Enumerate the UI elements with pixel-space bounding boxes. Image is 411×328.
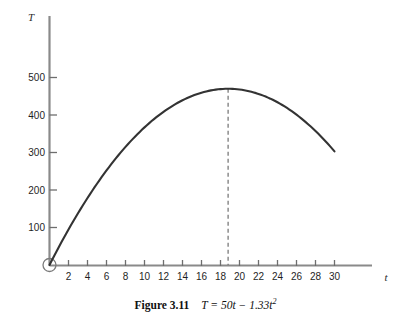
y-tick-label-200: 200 [28,185,45,196]
y-axis-ticks [50,78,58,228]
x-tick-label-20: 20 [234,271,246,282]
y-tick-label-500: 500 [28,72,45,83]
x-tick-label-22: 22 [253,271,265,282]
x-tick-label-14: 14 [177,271,189,282]
figure-container: 500 400 300 200 100 2 4 6 8 10 12 14 16 … [0,0,411,328]
x-tick-label-28: 28 [310,271,322,282]
y-axis-label: T [28,11,35,23]
x-tick-label-4: 4 [85,271,91,282]
y-axis-tick-labels: 500 400 300 200 100 [28,72,45,233]
figure-equation: T = 50t − 1.33t2 [201,299,276,311]
x-axis-tick-labels: 2 4 6 8 10 12 14 16 18 20 22 24 26 28 30 [66,271,341,282]
y-tick-label-300: 300 [28,147,45,158]
x-tick-label-18: 18 [215,271,227,282]
y-tick-label-100: 100 [28,222,45,233]
figure-caption: Figure 3.11T = 50t − 1.33t2 [0,297,411,311]
figure-equation-exponent: 2 [272,297,276,306]
x-tick-label-2: 2 [66,271,72,282]
x-tick-label-8: 8 [123,271,129,282]
x-tick-label-30: 30 [329,271,341,282]
x-tick-label-24: 24 [272,271,284,282]
x-tick-label-6: 6 [104,271,110,282]
figure-number: Figure 3.11 [135,299,190,311]
chart-plot: 500 400 300 200 100 2 4 6 8 10 12 14 16 … [0,0,411,328]
parabola-curve [50,89,335,265]
x-tick-label-10: 10 [139,271,151,282]
figure-equation-body: T = 50t − 1.33t [201,299,272,311]
x-tick-label-12: 12 [158,271,170,282]
x-axis-label: t [384,271,388,283]
y-tick-label-400: 400 [28,110,45,121]
x-tick-label-16: 16 [196,271,208,282]
x-tick-label-26: 26 [291,271,303,282]
